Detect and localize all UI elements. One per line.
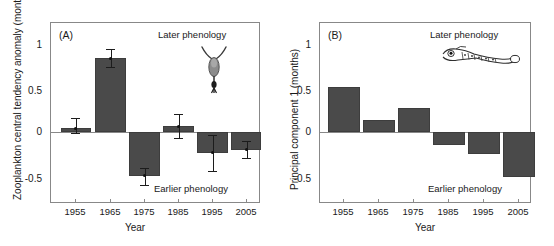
- panel-label-b: (B): [328, 29, 342, 41]
- y-tick-label-a-0: 0: [22, 127, 42, 137]
- copepod-icon: [196, 43, 232, 99]
- y-tick-label-b-neg0.5: -0.5: [283, 174, 311, 184]
- bar-b-1995: [468, 132, 500, 154]
- panel-b: Principal component 1 (months) 1 0.5 0 -…: [277, 0, 554, 246]
- x-tick-label-b-2005: 2005: [498, 207, 538, 217]
- fish-larva-icon: [438, 43, 520, 73]
- x-tick-label-a-2005: 2005: [226, 207, 266, 217]
- y-tick-label-b-0: 0: [291, 127, 311, 137]
- error-cap-a-2005-top: [242, 141, 251, 142]
- error-bar-a-1955: [76, 118, 77, 134]
- error-cap-a-1995-top: [208, 135, 217, 136]
- x-tick-mark-b-1995: [483, 199, 484, 203]
- plot-area-b: (B) Later phenology: [319, 22, 531, 203]
- x-tick-mark-a-1985: [178, 199, 179, 203]
- x-tick-mark-a-1995: [212, 199, 213, 203]
- bar-b-1955: [328, 87, 360, 132]
- error-cap-a-1985-top: [174, 114, 183, 115]
- x-tick-mark-a-1965: [110, 199, 111, 203]
- x-tick-mark-b-1955: [343, 199, 344, 203]
- error-dot-a-1965: [109, 57, 112, 60]
- panel-label-a: (A): [59, 29, 73, 41]
- x-tick-label-b-1995: 1995: [463, 207, 503, 217]
- bar-b-1985: [433, 132, 465, 145]
- x-tick-label-b-1955: 1955: [323, 207, 363, 217]
- y-tick-label-a-neg0.5: -0.5: [14, 174, 42, 184]
- plot-area-a: (A) Later phenology: [50, 22, 260, 203]
- y-axis-title-b: Principal component 1 (months): [289, 49, 300, 190]
- error-dot-a-1955: [74, 127, 77, 130]
- error-cap-a-1985-bottom: [174, 138, 183, 139]
- earlier-phenology-label-a: Earlier phenology: [154, 183, 228, 194]
- y-tick-label-b-1: 1: [291, 40, 311, 50]
- y-tick-label-a-0.5: 0.5: [18, 86, 42, 96]
- bar-b-1965: [363, 120, 395, 132]
- x-tick-mark-b-1965: [378, 199, 379, 203]
- x-tick-mark-b-2005: [518, 199, 519, 203]
- x-axis-title-b: Year: [415, 222, 435, 233]
- y-axis-title-a: Zooplankton central tendency anomaly (mo…: [12, 0, 23, 200]
- bar-a-1965: [95, 58, 126, 132]
- error-dot-a-1975: [143, 174, 146, 177]
- panel-a: Zooplankton central tendency anomaly (mo…: [0, 0, 277, 246]
- earlier-phenology-label-b: Earlier phenology: [428, 183, 502, 194]
- x-tick-label-a-1955: 1955: [55, 207, 95, 217]
- error-cap-a-1975-top: [140, 168, 149, 169]
- error-cap-a-1965-bottom: [106, 67, 115, 68]
- error-cap-a-1955-top: [71, 118, 80, 119]
- x-tick-label-b-1965: 1965: [358, 207, 398, 217]
- x-tick-mark-a-1975: [144, 199, 145, 203]
- error-cap-a-1975-bottom: [140, 185, 149, 186]
- error-dot-a-1985: [177, 125, 180, 128]
- later-phenology-label-b: Later phenology: [430, 29, 498, 40]
- x-axis-title-a: Year: [125, 222, 145, 233]
- bar-b-2005: [503, 132, 535, 177]
- figure-container: Zooplankton central tendency anomaly (mo…: [0, 0, 554, 246]
- error-cap-a-1955-bottom: [71, 133, 80, 134]
- error-cap-a-2005-bottom: [242, 158, 251, 159]
- x-tick-mark-a-1955: [75, 199, 76, 203]
- x-tick-label-b-1975: 1975: [393, 207, 433, 217]
- x-tick-mark-a-2005: [246, 199, 247, 203]
- error-cap-a-1995-bottom: [208, 171, 217, 172]
- y-tick-label-b-0.5: 0.5: [287, 86, 311, 96]
- x-tick-mark-b-1975: [413, 199, 414, 203]
- x-tick-label-b-1985: 1985: [428, 207, 468, 217]
- error-dot-a-2005: [245, 148, 248, 151]
- later-phenology-label-a: Later phenology: [158, 29, 226, 40]
- bar-b-1975: [398, 108, 430, 132]
- x-tick-mark-b-1985: [448, 199, 449, 203]
- y-tick-label-a-1: 1: [22, 40, 42, 50]
- error-cap-a-1965-top: [106, 49, 115, 50]
- error-dot-a-1995: [211, 151, 214, 154]
